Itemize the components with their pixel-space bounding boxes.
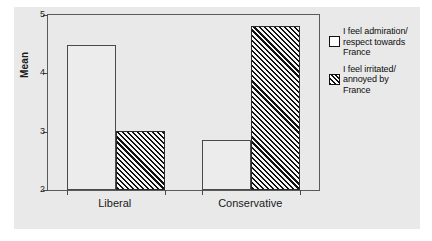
bar-liberal-series2	[116, 131, 165, 190]
plot-area: 2345	[48, 15, 319, 190]
bar-conservative-series2	[251, 26, 300, 191]
x-axis-tick-mark	[300, 190, 301, 195]
chart-legend: I feel admiration/ respect towards Franc…	[329, 26, 427, 101]
legend-item-admiration-line3: France	[343, 47, 427, 58]
legend-item-admiration: I feel admiration/ respect towards Franc…	[329, 26, 427, 58]
legend-item-admiration-line2: respect towards	[343, 37, 427, 48]
x-axis-category-label: Conservative	[190, 197, 310, 209]
legend-item-irritated-line2: annoyed by	[343, 74, 427, 85]
y-axis-tick-label: 3	[40, 126, 45, 137]
x-axis-tick-mark	[67, 190, 68, 195]
open-square-icon	[329, 36, 340, 47]
x-axis-tick-mark	[202, 190, 203, 195]
legend-item-admiration-line1: I feel admiration/	[343, 26, 427, 37]
x-axis-tick-mark	[165, 190, 166, 195]
legend-item-irritated-line3: France	[343, 85, 427, 96]
y-axis-title: Mean	[19, 52, 30, 78]
bar-liberal-series1	[67, 45, 116, 190]
x-axis-category-label: Liberal	[55, 197, 175, 209]
legend-item-irritated-line1: I feel irritated/	[343, 64, 427, 75]
bar-conservative-series1	[202, 140, 251, 190]
legend-item-irritated: I feel irritated/ annoyed by France	[329, 64, 427, 96]
y-axis-tick-label: 5	[40, 9, 45, 20]
chart-figure: Mean 2345 LiberalConservative I feel adm…	[0, 0, 432, 241]
y-axis-tick-label: 4	[40, 67, 45, 78]
plot-frame: 2345	[47, 14, 320, 191]
hatched-square-icon	[329, 74, 340, 85]
y-axis-tick-label: 2	[40, 184, 45, 195]
